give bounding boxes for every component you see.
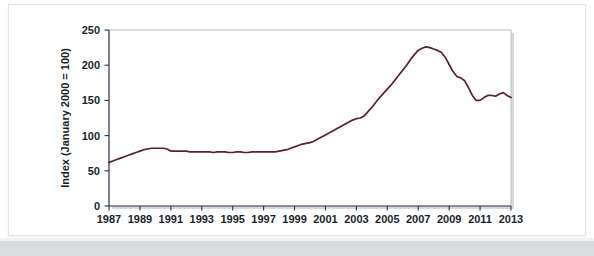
y-axis-tick-labels: 0 50 100 150 200 250 (82, 24, 100, 212)
x-tick-label-1995: 1995 (220, 213, 244, 225)
chart-container: 0 50 100 150 200 250 Index (January 2000… (9, 5, 587, 237)
x-tick-label-2013: 2013 (499, 213, 523, 225)
y-axis-title: Index (January 2000 = 100) (59, 48, 71, 188)
bottom-strip (0, 241, 594, 256)
x-tick-label-1997: 1997 (251, 213, 275, 225)
line-chart: 0 50 100 150 200 250 Index (January 2000… (9, 5, 587, 237)
y-tick-label-250: 250 (82, 24, 100, 36)
y-tick-label-100: 100 (82, 130, 100, 142)
x-tick-label-1999: 1999 (282, 213, 306, 225)
x-tick-label-1993: 1993 (190, 213, 214, 225)
x-axis-tick-labels: 1987198919911993199519971999200120032005… (97, 213, 523, 225)
x-tick-label-2011: 2011 (468, 213, 492, 225)
y-tick-label-200: 200 (82, 59, 100, 71)
x-tick-label-1989: 1989 (128, 213, 152, 225)
x-tick-label-1987: 1987 (97, 213, 121, 225)
y-axis-ticks (105, 30, 110, 206)
y-tick-label-150: 150 (82, 94, 100, 106)
x-tick-label-2003: 2003 (344, 213, 368, 225)
x-tick-label-1991: 1991 (159, 213, 183, 225)
y-tick-label-0: 0 (94, 200, 100, 212)
y-tick-label-50: 50 (88, 165, 100, 177)
x-tick-label-2007: 2007 (406, 213, 430, 225)
x-tick-label-2009: 2009 (437, 213, 461, 225)
x-tick-label-2001: 2001 (313, 213, 337, 225)
figure-root: 0 50 100 150 200 250 Index (January 2000… (0, 0, 594, 256)
x-tick-label-2005: 2005 (375, 213, 399, 225)
figure-card: 0 50 100 150 200 250 Index (January 2000… (8, 4, 586, 236)
plot-area-background (109, 30, 511, 206)
